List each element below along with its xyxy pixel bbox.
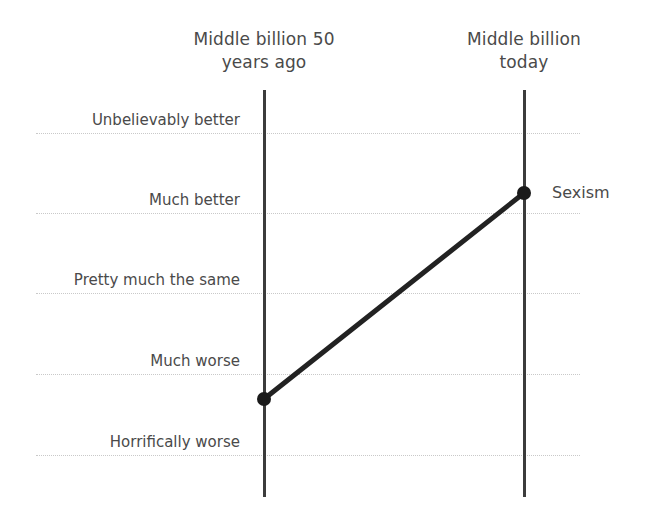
gridline-much-worse (36, 374, 580, 375)
column-header-left: Middle billion 50 years ago (164, 28, 364, 74)
gridline-unbelievably-better (36, 133, 580, 134)
y-axis-label-pretty-much-the-same: Pretty much the same (74, 272, 240, 289)
y-axis-label-horrifically-worse: Horrifically worse (110, 434, 240, 451)
column-header-left-line1: Middle billion 50 (164, 28, 364, 51)
column-header-left-line2: years ago (164, 51, 364, 74)
series-annotation-sexism: Sexism (552, 183, 610, 202)
series-sexism (0, 0, 646, 525)
column-header-right: Middle billion today (434, 28, 614, 74)
axis-line-left (263, 90, 266, 497)
column-header-right-line1: Middle billion (434, 28, 614, 51)
y-axis-label-unbelievably-better: Unbelievably better (92, 112, 240, 129)
y-axis-label-much-better: Much better (149, 192, 240, 209)
series-line-sexism (264, 193, 524, 399)
y-axis-label-much-worse: Much worse (150, 353, 240, 370)
gridline-pretty-much-the-same (36, 293, 580, 294)
column-header-right-line2: today (434, 51, 614, 74)
chart-canvas: Middle billion 50 years ago Middle billi… (0, 0, 646, 525)
gridline-horrifically-worse (36, 455, 580, 456)
axis-line-right (523, 90, 526, 497)
gridline-much-better (36, 213, 580, 214)
